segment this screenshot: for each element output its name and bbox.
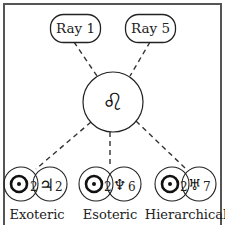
- esoteric-sun-house: 2: [104, 180, 112, 194]
- hierarchical-label: Hierarchical: [145, 207, 225, 222]
- center-sign-leo: ♌: [83, 72, 143, 132]
- ray-box-1: Ray 1: [51, 15, 101, 43]
- ray-5-label: Ray 5: [131, 20, 170, 36]
- sun-icon: [86, 176, 102, 192]
- exoteric-label: Exoteric: [9, 207, 64, 222]
- esoteric-planet-house: 6: [128, 180, 136, 194]
- rulership-diagram: Ray 1 Ray 5 ♌ 2 ♃ 2 Exoteric 2 ♆ 6 Esote…: [0, 0, 225, 225]
- hierarchical-sun-house: 2: [180, 180, 188, 194]
- connector-center-hierarchical: [136, 121, 185, 168]
- neptune-icon: ♆: [113, 176, 126, 194]
- esoteric-label: Esoteric: [83, 207, 138, 222]
- ruler-esoteric: 2 ♆ 6 Esoteric: [79, 167, 141, 222]
- connector-ray1-center: [74, 42, 97, 76]
- connector-center-exoteric: [36, 122, 91, 169]
- ray-box-5: Ray 5: [126, 15, 176, 43]
- connector-ray5-center: [130, 42, 150, 76]
- jupiter-icon: ♃: [39, 175, 54, 195]
- uranus-icon: ♅: [188, 176, 201, 194]
- leo-icon: ♌: [102, 88, 124, 116]
- ruler-exoteric: 2 ♃ 2 Exoteric: [4, 167, 67, 222]
- sun-icon: [11, 176, 27, 192]
- exoteric-planet-house: 2: [55, 180, 63, 194]
- sun-icon: [162, 176, 178, 192]
- hierarchical-planet-house: 7: [203, 180, 211, 194]
- ray-1-label: Ray 1: [56, 20, 95, 36]
- ruler-hierarchical: 2 ♅ 7 Hierarchical: [145, 167, 225, 222]
- exoteric-sun-house: 2: [30, 180, 38, 194]
